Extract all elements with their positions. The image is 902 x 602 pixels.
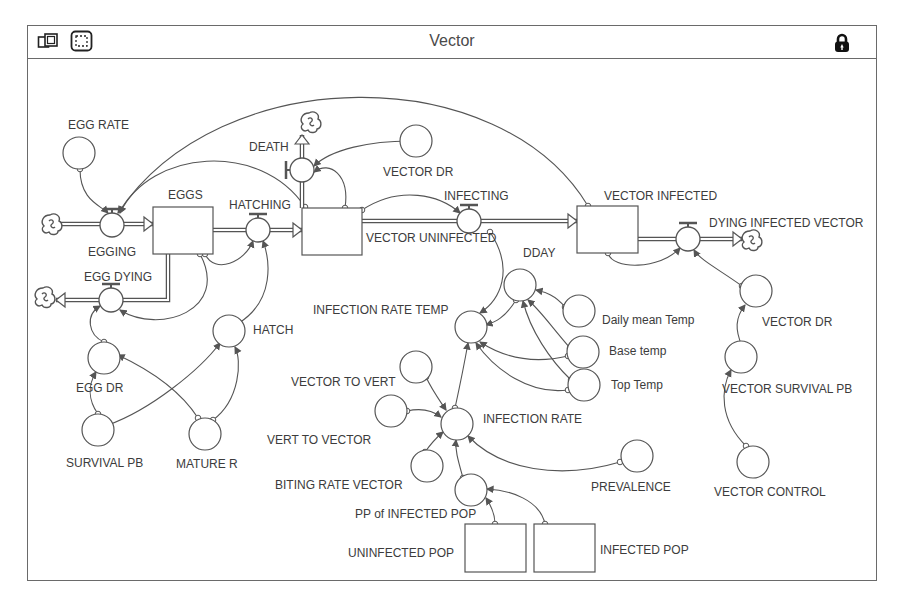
connector-arrow[interactable]: [236, 241, 268, 326]
converter-infection-rate-temp[interactable]: INFECTION RATE TEMP: [313, 303, 487, 343]
converter-vector-dr-right[interactable]: VECTOR DR: [740, 275, 833, 329]
converter-label: Base temp: [609, 344, 667, 358]
stock-box[interactable]: [465, 524, 526, 572]
converter-circle[interactable]: [455, 474, 487, 506]
converter-label: MATURE R: [176, 457, 238, 471]
flow-arrowhead-icon: [56, 293, 65, 307]
flow-arrowhead-icon: [144, 217, 153, 231]
converter-mature-r[interactable]: MATURE R: [176, 418, 238, 471]
flow-label: EGGING: [88, 245, 136, 259]
connector-arrow[interactable]: [456, 440, 466, 481]
converter-circle[interactable]: [504, 269, 536, 301]
converter-survival-pb[interactable]: SURVIVAL PB: [66, 414, 143, 470]
connector-arrow[interactable]: [694, 250, 745, 289]
stock-box[interactable]: [534, 524, 595, 572]
converter-prevalence[interactable]: PREVALENCE: [591, 440, 671, 494]
converter-label: VECTOR TO VERT: [291, 375, 396, 389]
converter-label: SURVIVAL PB: [66, 456, 143, 470]
converter-label: PP of INFECTED POP: [355, 507, 476, 521]
converter-hatch[interactable]: HATCH: [213, 315, 293, 347]
stock-label: INFECTED POP: [600, 543, 689, 557]
converter-biting-rate-vector[interactable]: BITING RATE VECTOR: [275, 450, 443, 492]
flow-hatching[interactable]: HATCHING: [229, 198, 291, 242]
connector-arrow[interactable]: [480, 342, 571, 359]
flow-valve-circle[interactable]: [290, 158, 314, 182]
flow-valve-circle[interactable]: [457, 209, 481, 233]
converter-label: BITING RATE VECTOR: [275, 478, 403, 492]
converter-circle[interactable]: [213, 315, 245, 347]
flow-pipe: [124, 217, 153, 231]
converter-vert-to-vector[interactable]: VERT TO VECTOR: [267, 395, 407, 447]
flow-arrowhead-icon: [733, 232, 742, 246]
connector-arrow[interactable]: [468, 436, 623, 471]
flow-valve-circle[interactable]: [246, 218, 270, 242]
converter-circle[interactable]: [189, 418, 221, 450]
connector-arrow[interactable]: [314, 168, 348, 211]
stock-infected-pop[interactable]: INFECTED POP: [534, 524, 689, 572]
connector-arrow[interactable]: [77, 166, 108, 213]
converter-vector-to-vert[interactable]: VECTOR TO VERT: [291, 351, 432, 389]
converter-circle[interactable]: [375, 395, 407, 427]
converter-label: VECTOR DR: [383, 165, 454, 179]
flow-infecting[interactable]: INFECTING: [444, 189, 509, 233]
connector-arrow[interactable]: [486, 297, 519, 325]
flow-label: EGG DYING: [84, 270, 152, 284]
converter-circle[interactable]: [563, 295, 595, 327]
cloud-icon: [35, 287, 55, 308]
cloud-icon: [301, 112, 321, 133]
converter-circle[interactable]: [455, 311, 487, 343]
converter-label: VERT TO VECTOR: [267, 433, 372, 447]
stock-uninfected-pop[interactable]: UNINFECTED POP: [348, 524, 526, 572]
converter-circle[interactable]: [88, 342, 120, 374]
converter-daily-mean-temp[interactable]: Daily mean Temp: [563, 295, 695, 327]
connector-arrow[interactable]: [120, 251, 207, 319]
flow-label: HATCHING: [229, 198, 291, 212]
stock-box[interactable]: [153, 207, 213, 254]
flow-valve-circle[interactable]: [676, 227, 700, 251]
flow-egg-dying[interactable]: EGG DYING: [84, 270, 152, 312]
flow-pipe: [700, 232, 742, 246]
converter-circle[interactable]: [621, 440, 653, 472]
flow-egging[interactable]: EGGING: [88, 209, 136, 259]
stock-box[interactable]: [577, 206, 638, 253]
flow-valve-circle[interactable]: [99, 288, 123, 312]
connector-arrow[interactable]: [118, 355, 201, 421]
converter-label: HATCH: [253, 323, 293, 337]
converter-label: EGG DR: [76, 381, 124, 395]
converter-circle[interactable]: [400, 125, 432, 157]
converter-circle[interactable]: [411, 450, 443, 482]
converter-vector-survival-pb[interactable]: VECTOR SURVIVAL PB: [722, 341, 852, 396]
connector-arrow[interactable]: [486, 498, 498, 527]
flow-arrowhead-icon: [295, 135, 309, 144]
converter-egg-dr[interactable]: EGG DR: [76, 342, 124, 395]
stock-flow-diagram[interactable]: EGGSVECTOR UNINFECTEDVECTOR INFECTEDUNIN…: [0, 0, 902, 602]
converter-circle[interactable]: [441, 408, 473, 440]
converter-top-temp[interactable]: Top Temp: [568, 369, 663, 401]
converter-vector-dr-top[interactable]: VECTOR DR: [383, 125, 454, 179]
converter-circle[interactable]: [63, 137, 95, 169]
connector-arrow[interactable]: [476, 343, 571, 393]
flow-dying-infected-vector[interactable]: DYING INFECTED VECTOR: [676, 216, 864, 251]
converter-circle[interactable]: [82, 414, 114, 446]
stock-eggs[interactable]: EGGS: [153, 188, 213, 254]
converter-infection-rate[interactable]: INFECTION RATE: [441, 408, 582, 440]
connector-arrow[interactable]: [210, 347, 238, 423]
connector-arrow[interactable]: [90, 306, 107, 345]
converter-circle[interactable]: [400, 351, 432, 383]
converter-circle[interactable]: [725, 341, 757, 373]
connector-arrow[interactable]: [452, 343, 468, 411]
converter-dday[interactable]: DDAY: [504, 246, 555, 301]
converter-circle[interactable]: [737, 446, 769, 478]
converter-circle[interactable]: [740, 275, 772, 307]
converter-vector-control[interactable]: VECTOR CONTROL: [714, 446, 826, 499]
flow-valve-circle[interactable]: [100, 213, 124, 237]
connector-arrow[interactable]: [404, 408, 441, 417]
converter-base-temp[interactable]: Base temp: [567, 336, 667, 368]
converter-circle[interactable]: [567, 336, 599, 368]
stock-box[interactable]: [302, 208, 362, 255]
flow-label: INFECTING: [444, 189, 509, 203]
flow-arrowhead-icon: [293, 223, 302, 237]
converter-label: Top Temp: [611, 378, 663, 392]
converter-circle[interactable]: [568, 369, 600, 401]
converter-egg-rate[interactable]: EGG RATE: [63, 118, 129, 169]
